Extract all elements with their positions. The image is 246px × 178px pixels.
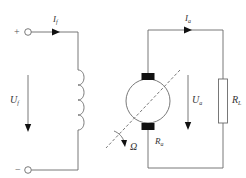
field-current-label: If: [52, 14, 59, 25]
armature-current-arrow-icon: [184, 27, 192, 34]
minus-sign: −: [15, 164, 21, 175]
load-resistor: [219, 79, 228, 123]
armature-resistance-label: Ra: [154, 136, 164, 147]
plus-sign: +: [14, 26, 20, 37]
dc-generator-circuit-diagram: + − If Uf Ia Ua RL Ra: [0, 0, 246, 178]
armature-current-label: Ia: [184, 13, 191, 24]
top-brush: [142, 73, 155, 80]
armature-voltage-arrow-icon: [185, 122, 191, 130]
field-winding-inductor: [78, 70, 84, 130]
field-plus-terminal: [25, 29, 32, 36]
armature-circuit: [106, 30, 228, 168]
field-minus-terminal: [25, 167, 32, 174]
field-circuit: [25, 29, 84, 174]
armature-rotor: [126, 79, 170, 123]
rotation-speed-label: Ω: [130, 141, 137, 152]
load-resistor-label: RL: [231, 94, 242, 106]
field-voltage-arrow-icon: [25, 124, 31, 132]
bottom-brush: [142, 123, 155, 130]
field-current-arrow-icon: [52, 29, 60, 36]
armature-voltage-label: Ua: [192, 94, 202, 106]
field-voltage-label: Uf: [10, 94, 20, 106]
rotation-arrow-icon: [121, 140, 127, 147]
